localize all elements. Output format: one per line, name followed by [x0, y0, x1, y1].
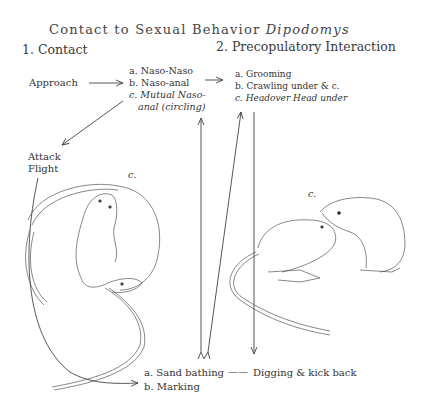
arrow-precop-sandbathing — [208, 112, 241, 352]
arrow-to-attack — [62, 101, 123, 145]
arrow-flight-to-marking — [29, 178, 138, 383]
diagram-connectors — [0, 0, 426, 415]
circling-rats-drawing — [26, 184, 160, 390]
headover-rats-drawing — [230, 198, 405, 335]
